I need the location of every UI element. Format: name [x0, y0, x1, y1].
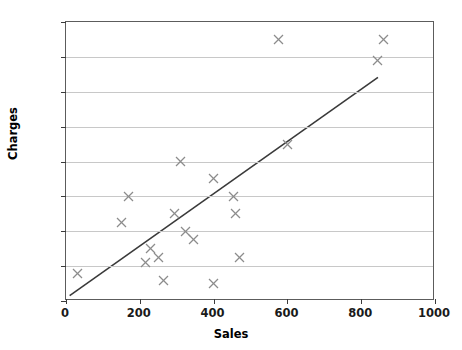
x-axis-tick	[140, 299, 141, 304]
x-axis-tick	[287, 299, 288, 304]
x-axis-title: Sales	[0, 327, 462, 341]
x-axis-tick	[66, 299, 67, 304]
gridline-horizontal	[66, 231, 433, 232]
x-axis-tick-label: 1000	[418, 306, 450, 320]
gridline-horizontal	[66, 196, 433, 197]
x-axis-tick-label: 800	[348, 306, 372, 320]
y-axis-tick	[61, 196, 66, 197]
x-axis-tick	[435, 299, 436, 304]
gridline-horizontal	[66, 57, 433, 58]
x-axis-tick-label: 600	[274, 306, 298, 320]
y-axis-tick	[61, 57, 66, 58]
gridline-horizontal	[66, 162, 433, 163]
x-axis-tick-label: 0	[61, 306, 69, 320]
y-axis-tick	[61, 127, 66, 128]
gridline-horizontal	[66, 92, 433, 93]
x-axis-tick	[361, 299, 362, 304]
plot-area	[65, 21, 434, 300]
y-axis-tick	[61, 22, 66, 23]
trend-line	[66, 22, 433, 299]
gridline-horizontal	[66, 127, 433, 128]
x-axis-tick-label: 200	[127, 306, 151, 320]
gridline-horizontal	[66, 266, 433, 267]
scatter-chart: Charges Sales 02468101214160200400600800…	[0, 0, 462, 350]
x-axis-tick-label: 400	[201, 306, 225, 320]
x-axis-tick	[214, 299, 215, 304]
y-axis-tick	[61, 231, 66, 232]
y-axis-title: Charges	[6, 107, 20, 160]
y-axis-tick	[61, 92, 66, 93]
y-axis-tick	[61, 162, 66, 163]
y-axis-tick	[61, 266, 66, 267]
